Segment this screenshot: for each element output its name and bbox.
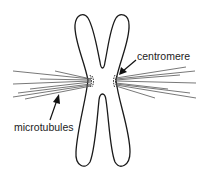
microtubule [13, 71, 91, 79]
chromosome-diagram: centromere microtubules [0, 0, 206, 179]
microtubules-label: microtubules [14, 121, 74, 133]
microtubule [116, 71, 195, 79]
centromere-label: centromere [137, 50, 190, 62]
centromere-arrow [123, 60, 136, 71]
chromosome-outline [75, 15, 130, 166]
right-microtubules [116, 67, 196, 98]
left-kinetochore-inner [92, 76, 94, 87]
microtubules-arrowhead [53, 94, 60, 104]
microtubule [116, 84, 190, 93]
microtubules-arrow [50, 100, 57, 120]
microtubule [116, 85, 196, 98]
right-kinetochore [114, 75, 116, 88]
microtubule [116, 81, 196, 83]
microtubule [40, 79, 91, 80]
left-microtubules [13, 71, 91, 99]
